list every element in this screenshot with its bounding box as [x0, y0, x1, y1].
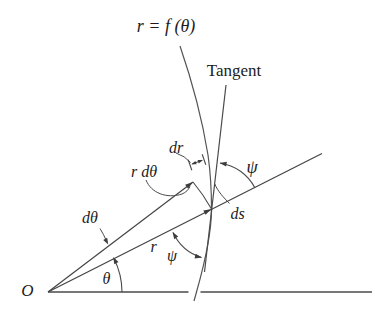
dr-dimension-arrowhead-left — [191, 161, 196, 164]
psi-lower-arc-arrowhead-start — [173, 232, 179, 239]
dtheta-leader-arrowhead — [103, 238, 108, 245]
dtheta-label: dθ — [82, 209, 98, 226]
dr-dimension-arrowhead-right — [198, 160, 203, 163]
figure-canvas: r = f (θ) Tangent dr r dθ ψ ds dθ r ψ θ … — [0, 0, 382, 326]
ds-label: ds — [230, 205, 244, 222]
psi-upper-arc-arrowhead — [220, 162, 227, 167]
r-dtheta-label: r dθ — [131, 163, 157, 180]
theta-label: θ — [103, 270, 111, 287]
tangent-line — [205, 85, 227, 272]
psi-lower-label: ψ — [167, 247, 178, 265]
psi-upper-label: ψ — [246, 157, 258, 177]
tangent-label: Tangent — [207, 61, 262, 80]
ds-leader-line — [215, 184, 230, 204]
dr-label: dr — [169, 139, 184, 156]
r-dtheta-leader-line — [146, 180, 190, 196]
polar-curve — [180, 46, 212, 301]
radius-label: r — [150, 238, 157, 255]
dr-tick-far — [202, 154, 206, 164]
radius-op-arrowhead — [203, 209, 211, 215]
curve-equation-label: r = f (θ) — [137, 16, 195, 37]
origin-label: O — [21, 281, 33, 300]
r-dtheta-arc — [193, 182, 212, 209]
polar-tangent-angle-figure: r = f (θ) Tangent dr r dθ ψ ds dθ r ψ θ … — [0, 0, 382, 326]
